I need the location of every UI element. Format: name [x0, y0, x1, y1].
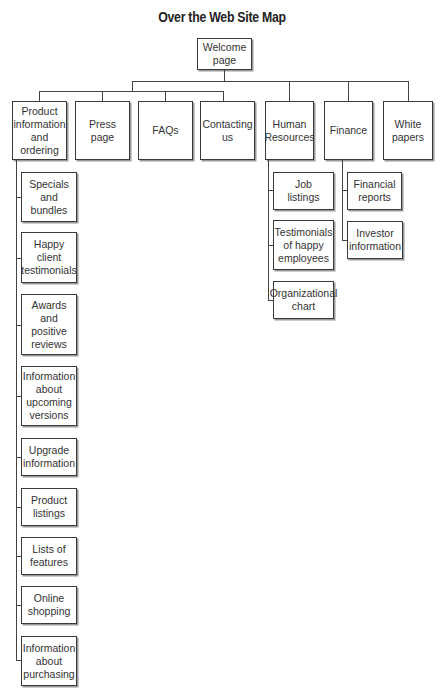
node-label: Contacting us	[202, 118, 252, 144]
node-label: Awards and positive reviews	[31, 299, 67, 351]
node-white-papers: White papers	[383, 101, 433, 160]
node-organizational-chart: Organizational chart	[273, 281, 334, 319]
node-label: Finance	[330, 124, 367, 137]
connector	[223, 91, 224, 101]
node-information-about-purchasing: Information about purchasing	[21, 636, 77, 686]
node-label: Investor information	[349, 227, 401, 253]
node-label: Welcome page	[203, 41, 247, 67]
connector	[268, 160, 269, 301]
node-testimonials-happy-employees: Testimonials of happy employees	[273, 220, 334, 270]
node-label: Information about purchasing	[23, 642, 76, 681]
node-label: Job listings	[287, 178, 319, 204]
node-label: Product information and ordering	[14, 105, 66, 157]
node-label: Specials and bundles	[29, 178, 69, 217]
connector	[408, 81, 409, 101]
node-financial-reports: Financial reports	[347, 172, 402, 210]
node-label: Lists of features	[30, 543, 68, 569]
connector	[342, 160, 343, 241]
node-label: Online shopping	[28, 592, 71, 618]
node-finance: Finance	[324, 101, 373, 160]
node-label: Testimonials of happy employees	[275, 226, 333, 265]
node-label: Human Resources	[264, 118, 314, 144]
connector	[16, 160, 17, 661]
node-label: Information about upcoming versions	[23, 370, 76, 422]
connector	[348, 81, 349, 101]
node-label: FAQs	[152, 124, 178, 137]
node-upcoming-versions: Information about upcoming versions	[21, 366, 77, 426]
node-label: Press page	[89, 118, 116, 144]
node-product-listings: Product listings	[21, 488, 77, 526]
node-product-information: Product information and ordering	[12, 101, 67, 160]
connector	[39, 91, 40, 101]
node-happy-client-testimonials: Happy client testimonials	[21, 232, 77, 283]
connector	[132, 81, 409, 82]
node-investor-information: Investor information	[347, 221, 403, 259]
node-faqs: FAQs	[138, 101, 193, 160]
node-online-shopping: Online shopping	[21, 586, 77, 624]
node-lists-of-features: Lists of features	[21, 537, 77, 575]
node-press-page: Press page	[75, 101, 130, 160]
node-specials-and-bundles: Specials and bundles	[21, 172, 77, 222]
node-awards-positive-reviews: Awards and positive reviews	[21, 294, 77, 355]
connector	[289, 81, 290, 101]
node-job-listings: Job listings	[273, 172, 334, 210]
node-label: Financial reports	[353, 178, 395, 204]
node-label: White papers	[392, 118, 424, 144]
node-label: Happy client testimonials	[21, 238, 76, 277]
diagram-title: Over the Web Site Map	[27, 9, 418, 25]
connector	[102, 91, 103, 101]
node-label: Product listings	[31, 494, 67, 520]
node-contacting-us: Contacting us	[200, 101, 255, 160]
connector	[39, 91, 224, 92]
connector	[165, 91, 166, 101]
node-upgrade-information: Upgrade information	[21, 438, 77, 476]
node-label: Organizational chart	[270, 287, 338, 313]
node-welcome-page: Welcome page	[197, 38, 252, 70]
node-label: Upgrade information	[23, 444, 75, 470]
node-human-resources: Human Resources	[265, 101, 314, 160]
